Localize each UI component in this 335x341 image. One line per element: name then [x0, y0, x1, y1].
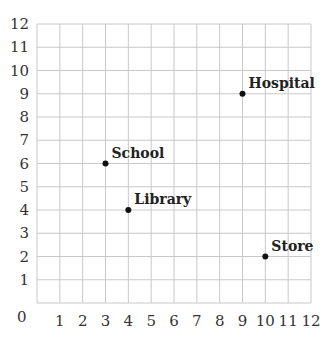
x-tick-label: 7: [192, 312, 202, 330]
points: HospitalSchoolLibraryStore: [103, 75, 315, 260]
x-tick-label: 9: [238, 312, 248, 330]
x-tick-label: 12: [301, 312, 320, 330]
x-tick-label: 1: [55, 312, 65, 330]
y-tick-label: 6: [19, 155, 29, 173]
y-tick-label: 12: [10, 15, 29, 33]
x-tick-label: 3: [101, 312, 111, 330]
x-tick-label: 2: [78, 312, 88, 330]
x-axis-ticks: 123456789101112: [55, 312, 320, 330]
y-tick-label: 2: [19, 248, 29, 266]
point-label: Hospital: [249, 75, 315, 91]
point-label: Library: [134, 191, 192, 207]
x-tick-label: 5: [146, 312, 156, 330]
y-tick-label: 11: [10, 38, 29, 56]
y-tick-label: 9: [19, 85, 29, 103]
y-tick-label: 4: [19, 201, 29, 219]
x-tick-label: 11: [279, 312, 298, 330]
point-label: Store: [271, 238, 313, 254]
point-marker: [240, 91, 246, 97]
x-tick-label: 6: [169, 312, 179, 330]
y-axis-ticks: 123456789101112: [10, 15, 29, 289]
x-tick-label: 10: [256, 312, 275, 330]
x-tick-label: 8: [215, 312, 225, 330]
y-tick-label: 3: [19, 224, 29, 242]
point-label: School: [112, 145, 165, 161]
y-tick-label: 7: [19, 131, 29, 149]
y-tick-label: 1: [19, 271, 29, 289]
grid-lines: [37, 24, 311, 303]
y-tick-label: 8: [19, 108, 29, 126]
point-marker: [103, 161, 109, 167]
origin-label: 0: [17, 308, 27, 326]
x-tick-label: 4: [124, 312, 134, 330]
coordinate-grid: 123456789101112 123456789101112 0 Hospit…: [0, 0, 335, 341]
y-tick-label: 5: [19, 178, 29, 196]
y-tick-label: 10: [10, 62, 29, 80]
point-marker: [262, 254, 268, 260]
point-marker: [125, 207, 131, 213]
